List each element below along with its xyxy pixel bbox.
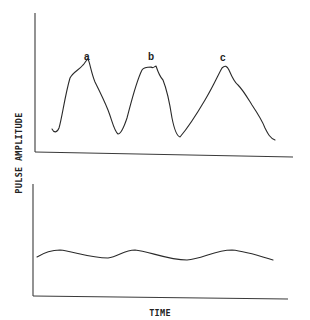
lower-trace-line — [37, 250, 273, 260]
pulse-amplitude-figure: a b c PULSE AMPLITUDE TIME — [0, 0, 310, 320]
y-axis-label: PULSE AMPLITUDE — [14, 112, 24, 193]
upper-trace-line — [52, 59, 275, 140]
peak-label-c: c — [220, 52, 226, 63]
lower-plot — [33, 184, 288, 299]
peak-label-a: a — [84, 51, 90, 62]
upper-plot: a b c — [35, 13, 293, 157]
peak-label-b: b — [148, 51, 154, 62]
upper-x-axis — [35, 152, 293, 157]
x-axis-label: TIME — [149, 308, 171, 318]
lower-x-axis — [33, 296, 288, 299]
